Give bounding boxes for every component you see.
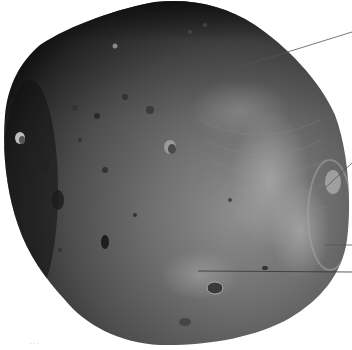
image-caption: · · · xyxy=(30,341,39,346)
phobos-body xyxy=(0,0,352,345)
phobos-image xyxy=(0,0,352,350)
